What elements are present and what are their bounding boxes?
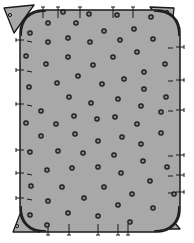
- pad-body: [20, 10, 180, 232]
- stitched-pad-illustration: [0, 0, 194, 243]
